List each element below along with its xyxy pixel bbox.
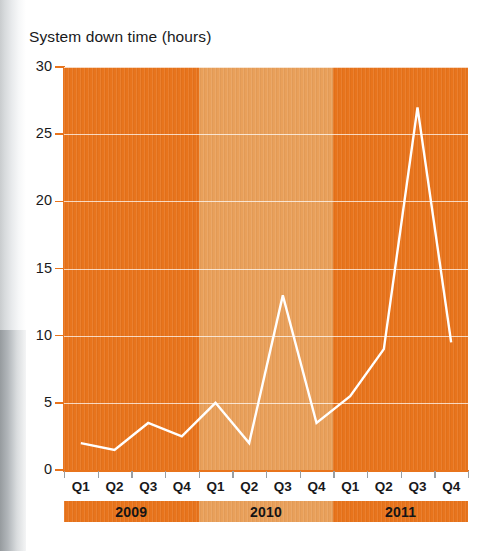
- x-tick-mark-9: [367, 471, 368, 478]
- y-tick-label-15: 15: [16, 260, 52, 276]
- chart-figure: System down time (hours) 302520151050 Q1…: [0, 0, 483, 551]
- x-tick-mark-8: [333, 471, 334, 478]
- x-tick-mark-12: [468, 471, 469, 478]
- year-segment-2010: 2010: [199, 501, 334, 522]
- x-tick-mark-6: [266, 471, 267, 478]
- year-segment-label: 2010: [199, 501, 334, 522]
- x-tick-mark-2: [131, 471, 132, 478]
- y-tick-label-25: 25: [16, 125, 52, 141]
- x-tick-label-2: Q3: [131, 479, 165, 494]
- y-tick-mark-10: [55, 335, 64, 337]
- y-tick-mark-5: [55, 402, 64, 404]
- x-tick-label-7: Q4: [300, 479, 334, 494]
- x-tick-mark-0: [64, 471, 65, 478]
- year-segment-label: 2011: [333, 501, 468, 522]
- year-band-bar: 200920102011: [64, 501, 468, 522]
- y-tick-label-30: 30: [16, 58, 52, 74]
- x-tick-mark-1: [98, 471, 99, 478]
- x-tick-mark-4: [199, 471, 200, 478]
- x-tick-label-8: Q1: [333, 479, 367, 494]
- y-tick-label-5: 5: [16, 394, 52, 410]
- y-tick-mark-30: [55, 66, 64, 68]
- y-tick-label-0: 0: [16, 461, 52, 477]
- year-segment-2011: 2011: [333, 501, 468, 522]
- plot-area: [64, 67, 468, 470]
- year-segment-2009: 2009: [64, 501, 199, 522]
- x-tick-mark-10: [401, 471, 402, 478]
- x-tick-mark-7: [300, 471, 301, 478]
- chart-title: System down time (hours): [29, 28, 211, 46]
- y-tick-label-20: 20: [16, 192, 52, 208]
- x-tick-label-6: Q3: [266, 479, 300, 494]
- x-tick-label-4: Q1: [199, 479, 233, 494]
- x-tick-mark-11: [434, 471, 435, 478]
- y-tick-mark-20: [55, 201, 64, 203]
- y-tick-mark-15: [55, 268, 64, 270]
- year-segment-label: 2009: [64, 501, 199, 522]
- x-tick-label-5: Q2: [232, 479, 266, 494]
- x-tick-label-1: Q2: [98, 479, 132, 494]
- x-tick-label-10: Q3: [401, 479, 435, 494]
- x-tick-label-11: Q4: [434, 479, 468, 494]
- x-tick-mark-3: [165, 471, 166, 478]
- series-line: [64, 67, 468, 470]
- x-tick-label-9: Q2: [367, 479, 401, 494]
- x-tick-mark-5: [232, 471, 233, 478]
- y-tick-mark-25: [55, 133, 64, 135]
- x-tick-label-0: Q1: [64, 479, 98, 494]
- y-tick-label-10: 10: [16, 327, 52, 343]
- x-tick-label-3: Q4: [165, 479, 199, 494]
